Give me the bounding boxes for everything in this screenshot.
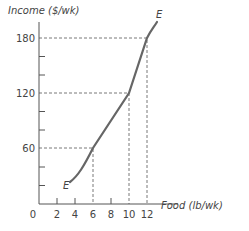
y-axis-ticks [39,57,45,186]
engel-curve-chart: Income ($/wk) Food (lb/wk) 180 120 60 0 … [0,0,249,231]
y-tick-180: 180 [16,33,35,44]
engel-curve-line [70,22,157,182]
y-tick-60: 60 [22,143,35,154]
origin-label: 0 [30,209,36,220]
x-tick-2: 2 [54,209,60,220]
y-tick-120: 120 [16,88,35,99]
curve-start-label: E [63,180,70,191]
x-axis-title: Food (lb/wk) [161,200,223,211]
x-tick-6: 6 [90,209,96,220]
x-tick-10: 10 [123,209,136,220]
ref-line-10-120 [39,93,129,204]
ref-line-6-60 [39,148,93,204]
x-tick-8: 8 [108,209,114,220]
x-tick-12: 12 [141,209,154,220]
curve-end-label: E [156,9,163,20]
y-axis-title: Income ($/wk) [8,5,79,16]
x-axis-ticks [57,198,111,204]
reference-lines [39,38,147,204]
x-tick-4: 4 [72,209,78,220]
